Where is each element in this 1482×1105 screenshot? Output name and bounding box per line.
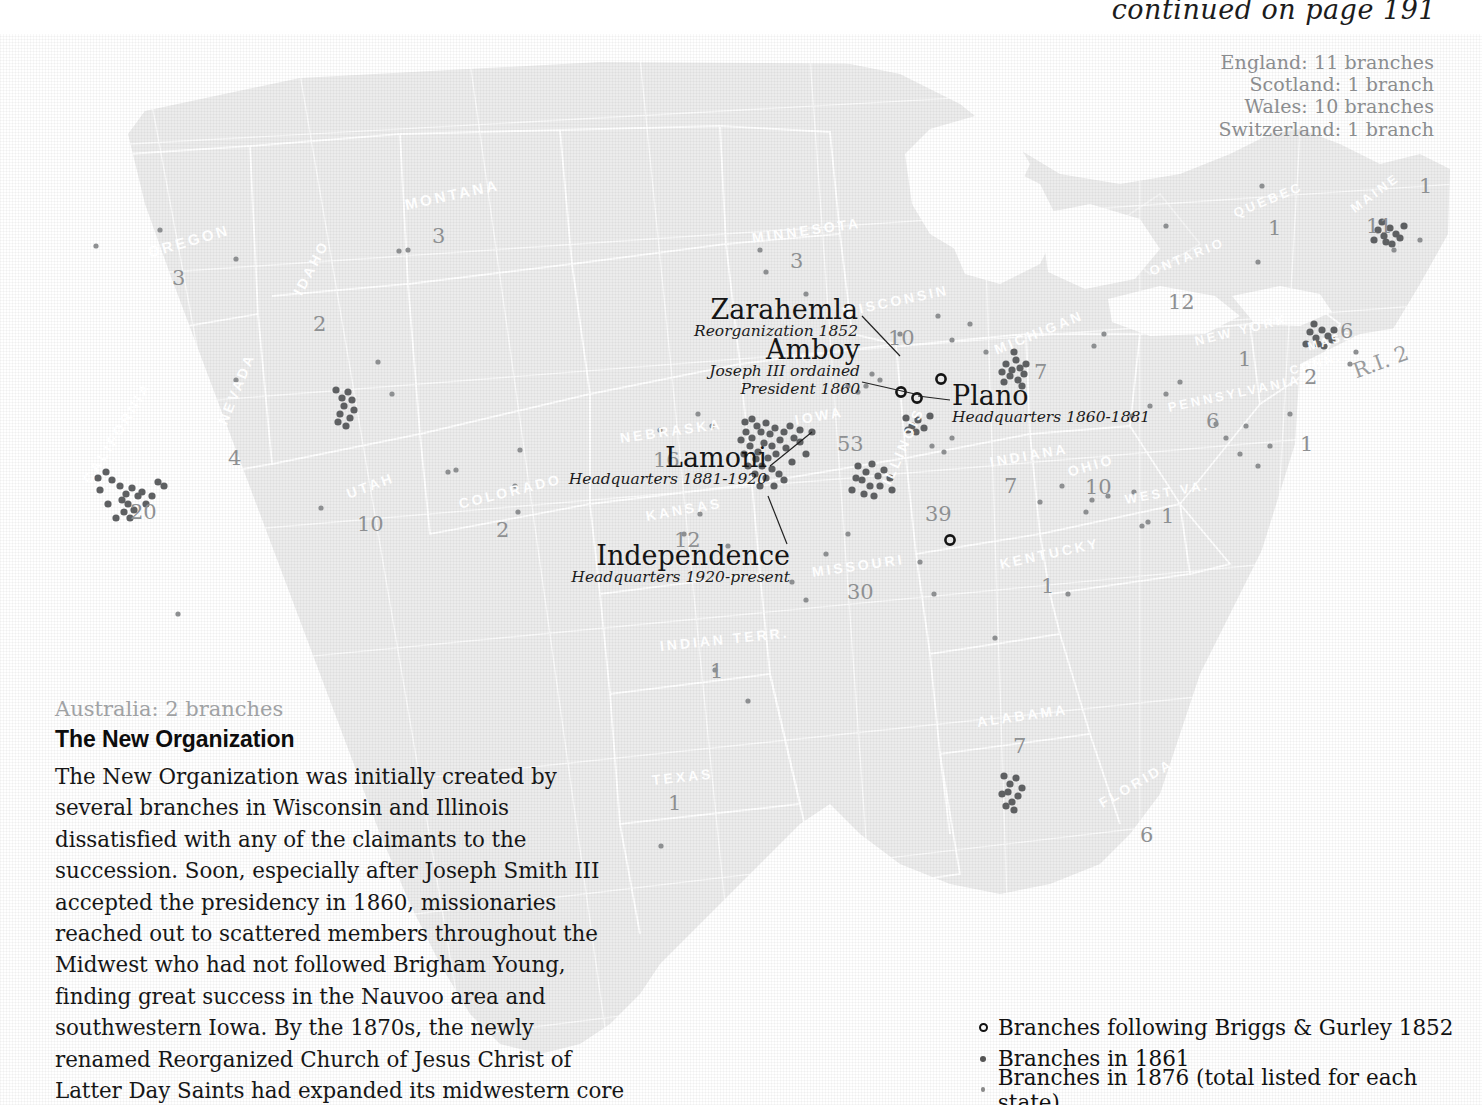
city-callout: ZarahemlaReorganization 1852 (0, 296, 858, 341)
legend-marker-medium-dot (968, 1056, 998, 1062)
city-subtitle: Joseph III ordained (0, 363, 860, 381)
city-callout: PlanoHeadquarters 1860-1881 (952, 382, 1150, 427)
city-name: Plano (952, 382, 1150, 409)
open-circle-icon (979, 1023, 988, 1032)
map-plate: OREGONMONTANAIDAHONEVADACALIFORNIAUTAHCO… (0, 34, 1482, 1105)
small-dot-icon (981, 1087, 986, 1092)
callout-leader-line (862, 382, 915, 394)
overseas-branch-counts: England: 11 branchesScotland: 1 branchWa… (1219, 51, 1435, 140)
city-subtitle: Headquarters 1920-present (0, 569, 790, 587)
city-subtitle: Headquarters 1881-1920 (0, 471, 767, 489)
overseas-branch-line: Scotland: 1 branch (1219, 73, 1435, 95)
overseas-branch-line: England: 11 branches (1219, 51, 1435, 73)
city-subtitle: President 1860 (0, 381, 860, 399)
city-subtitle: Headquarters 1860-1881 (952, 409, 1150, 427)
article-paragraph: The New Organization was initially creat… (55, 761, 633, 1105)
article-title: The New Organization (55, 726, 295, 753)
legend-label: Branches following Briggs & Gurley 1852 (998, 1015, 1453, 1040)
callout-leader-line (918, 396, 950, 400)
legend-marker-small-dot (968, 1087, 998, 1092)
australia-branch-note: Australia: 2 branches (55, 697, 283, 721)
city-name: Zarahemla (0, 296, 858, 323)
overseas-branch-line: Switzerland: 1 branch (1219, 118, 1435, 140)
city-name: Lamoni (0, 444, 767, 471)
legend-label: Branches in 1876 (total listed for each … (998, 1065, 1482, 1105)
city-callout: LamoniHeadquarters 1881-1920 (0, 444, 767, 489)
continued-on-page-note: continued on page 191 (1112, 0, 1436, 25)
legend-row: Branches in 1876 (total listed for each … (968, 1074, 1482, 1105)
legend-row: Branches following Briggs & Gurley 1852 (968, 1012, 1482, 1043)
callout-leader-line (770, 432, 812, 466)
article-body: The New Organization was initially creat… (55, 761, 633, 1105)
map-legend: Branches following Briggs & Gurley 1852B… (968, 1012, 1482, 1105)
callout-leader-line (862, 316, 900, 356)
city-callout: IndependenceHeadquarters 1920-present (0, 542, 790, 587)
overseas-branch-line: Wales: 10 branches (1219, 95, 1435, 117)
city-name: Amboy (0, 336, 860, 363)
medium-dot-icon (980, 1056, 986, 1062)
city-callout: AmboyJoseph III ordainedPresident 1860 (0, 336, 860, 399)
legend-marker-open-circle (968, 1023, 998, 1032)
city-name: Independence (0, 542, 790, 569)
callout-leader-line (768, 496, 787, 544)
